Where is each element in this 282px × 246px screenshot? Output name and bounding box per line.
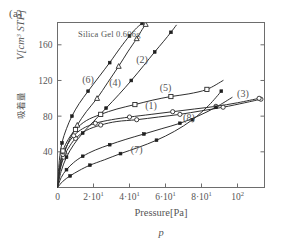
y-axis-title: 吸着量 [16, 92, 26, 119]
data-point-marker [170, 31, 173, 34]
x-tick-label: 2·101 [83, 190, 104, 202]
data-markers [61, 22, 263, 178]
data-point-marker [71, 115, 74, 118]
data-point-marker [257, 96, 261, 100]
y-axis-title-unit-group: V[cm3 STP] [15, 10, 26, 60]
data-point-marker [130, 79, 133, 82]
sample-annotation: Silica Gel 0.606g [78, 29, 141, 39]
data-point-marker [178, 112, 182, 116]
y-tick-label: 160 [38, 40, 53, 50]
x-tick-label: 102 [231, 190, 244, 202]
data-point-marker [127, 115, 131, 119]
x-axis-title: Pressure[Pa] [134, 207, 187, 218]
data-point-marker [87, 90, 90, 93]
data-point-marker [81, 132, 84, 135]
x-axis-symbol: p [157, 227, 163, 238]
curve-label-2: (2) [136, 54, 148, 66]
data-point-marker [81, 155, 84, 158]
data-point-marker [135, 118, 139, 122]
data-point-marker [155, 139, 158, 142]
data-point-marker [72, 134, 76, 138]
data-curve-2 [58, 25, 177, 187]
data-point-marker [93, 121, 97, 125]
data-point-marker [69, 175, 72, 178]
data-curve-8 [58, 91, 222, 187]
data-point-marker [119, 152, 122, 155]
data-point-marker [108, 61, 111, 64]
y-tick-label: 120 [38, 76, 53, 86]
curve-label-7: (7) [131, 144, 143, 156]
data-point-marker [220, 90, 223, 93]
data-point-marker [169, 94, 173, 98]
data-point-marker [99, 112, 103, 116]
data-point-marker [73, 127, 77, 131]
data-curve-1 [58, 99, 261, 187]
data-point-marker [65, 168, 68, 171]
y-axis-title-cjk: 吸着量 [16, 92, 26, 119]
y-tick-label: 80 [43, 112, 53, 122]
data-point-marker [133, 102, 137, 106]
data-curves [58, 23, 261, 187]
x-axis-tick-labels: 02·1014·1016·1018·101102 [55, 190, 244, 202]
data-point-marker [108, 143, 111, 146]
data-point-marker [61, 142, 64, 145]
data-curve-3 [58, 98, 260, 187]
curve-label-3: (3) [237, 88, 249, 100]
data-point-marker [65, 156, 68, 159]
figure-container: (a) 02·1014·1016·1018·101102 4080120160 … [0, 0, 282, 246]
y-axis-title-symbol: V[cm3 STP] [15, 10, 26, 60]
x-tick-label: 4·101 [119, 190, 140, 202]
data-point-marker [179, 122, 182, 125]
y-tick-label: 40 [43, 147, 53, 157]
data-point-marker [171, 110, 175, 114]
data-point-marker [143, 133, 146, 136]
curve-label-1: (1) [145, 100, 157, 112]
x-tick-label: 8·101 [191, 190, 212, 202]
data-point-marker [61, 149, 65, 153]
data-point-marker [99, 123, 103, 127]
data-point-marker [205, 87, 209, 91]
data-point-marker [221, 105, 225, 109]
data-point-marker [153, 51, 156, 54]
curve-label-4: (4) [109, 77, 121, 89]
data-point-marker [215, 106, 218, 109]
data-point-marker [89, 164, 92, 167]
adsorption-isotherm-chart: 02·1014·1016·1018·101102 4080120160 (1)(… [0, 0, 282, 246]
x-axis-ticks [58, 184, 238, 188]
x-tick-label: 6·101 [155, 190, 176, 202]
data-point-marker [105, 107, 108, 110]
x-tick-label: 0 [55, 192, 60, 202]
curve-label-6: (6) [82, 74, 94, 86]
curve-label-5: (5) [160, 82, 172, 94]
y-axis-tick-labels: 4080120160 [38, 40, 53, 157]
curve-label-8: (8) [183, 112, 195, 124]
